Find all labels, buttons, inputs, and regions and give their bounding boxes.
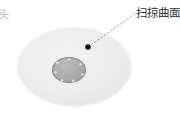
bolt-dot <box>68 58 71 61</box>
bolt-dot <box>72 80 75 83</box>
bolt-dot <box>61 79 64 82</box>
bolt-dot <box>81 73 84 76</box>
bolt-dot <box>79 63 82 66</box>
figure-canvas: 扫掠曲面 头 <box>0 0 180 114</box>
bolt-dot <box>56 62 59 65</box>
point-marker <box>85 44 91 50</box>
bolt-dot <box>54 71 57 74</box>
callout-label: 扫掠曲面 <box>136 8 180 20</box>
recessed-disc <box>53 58 86 83</box>
clipped-edge-label: 头 <box>0 10 9 22</box>
